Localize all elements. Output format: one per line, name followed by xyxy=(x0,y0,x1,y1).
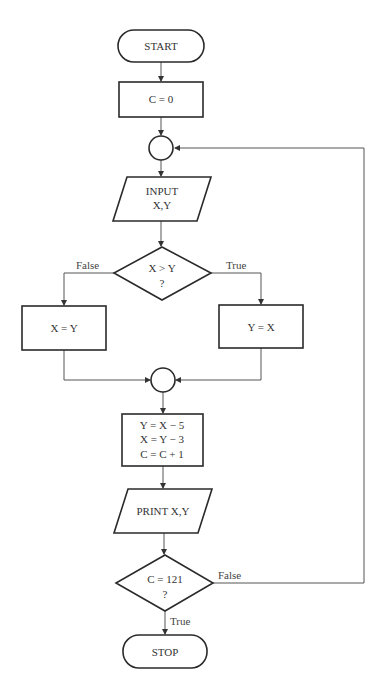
arrow-icon xyxy=(162,629,168,635)
input-label-line2: X,Y xyxy=(153,199,172,211)
decision2-label-line1: C = 121 xyxy=(147,573,183,585)
decision-c-equals-121: C = 121 ? xyxy=(116,555,213,611)
decision1-label-line2: ? xyxy=(160,277,165,289)
arrow-icon xyxy=(158,76,164,82)
arrow-icon xyxy=(158,171,164,177)
input-label-line1: INPUT xyxy=(146,185,179,197)
connector-circle-1 xyxy=(149,136,173,160)
input-io: INPUT X,Y xyxy=(113,177,211,221)
arrow-icon xyxy=(158,241,164,247)
stop-label: STOP xyxy=(152,646,179,658)
decision2-label-line2: ? xyxy=(163,588,168,600)
stop-terminal: STOP xyxy=(123,635,207,668)
arrow-icon xyxy=(174,145,180,151)
connector-circle-2 xyxy=(151,368,175,392)
edge-decision1-false xyxy=(64,273,114,305)
arrow-icon xyxy=(158,130,164,136)
start-label: START xyxy=(144,40,178,52)
arrow-icon xyxy=(145,377,151,383)
print-io: PRINT X,Y xyxy=(114,489,212,533)
assign-x-equals-y: X = Y xyxy=(22,306,106,350)
decision1-false-label: False xyxy=(76,259,99,271)
compute-line1: Y = X − 5 xyxy=(140,419,185,431)
arrow-icon xyxy=(175,377,181,383)
compute-line2: X = Y − 3 xyxy=(140,433,184,445)
assign-true-label: Y = X xyxy=(247,321,274,333)
compute-process: Y = X − 5 X = Y − 3 C = C + 1 xyxy=(122,414,203,466)
decision1-label-line1: X > Y xyxy=(148,262,175,274)
print-label: PRINT X,Y xyxy=(137,505,190,517)
init-process: C = 0 xyxy=(119,82,203,117)
arrow-icon xyxy=(160,408,166,414)
assign-y-equals-x: Y = X xyxy=(219,305,303,348)
arrow-icon xyxy=(258,299,264,305)
decision2-false-label: False xyxy=(218,569,241,581)
init-label: C = 0 xyxy=(149,93,174,105)
arrow-icon xyxy=(61,300,67,306)
decision2-true-label: True xyxy=(170,615,190,627)
compute-line3: C = C + 1 xyxy=(140,448,184,460)
decision1-true-label: True xyxy=(226,259,246,271)
assign-false-label: X = Y xyxy=(50,322,77,334)
flowchart: START C = 0 INPUT X,Y X > Y ? False True… xyxy=(0,0,384,690)
edge-decision1-true xyxy=(211,273,261,304)
decision-x-gt-y: X > Y ? xyxy=(114,247,211,300)
start-terminal: START xyxy=(118,30,204,62)
edge-true-merge xyxy=(176,348,261,380)
edge-false-merge xyxy=(64,350,150,380)
arrow-icon xyxy=(161,549,167,555)
arrow-icon xyxy=(160,483,166,489)
